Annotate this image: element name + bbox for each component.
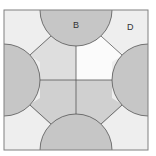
label-b: B: [73, 20, 79, 30]
label-d: D: [127, 22, 134, 32]
geometry-diagram: B D: [0, 0, 156, 156]
